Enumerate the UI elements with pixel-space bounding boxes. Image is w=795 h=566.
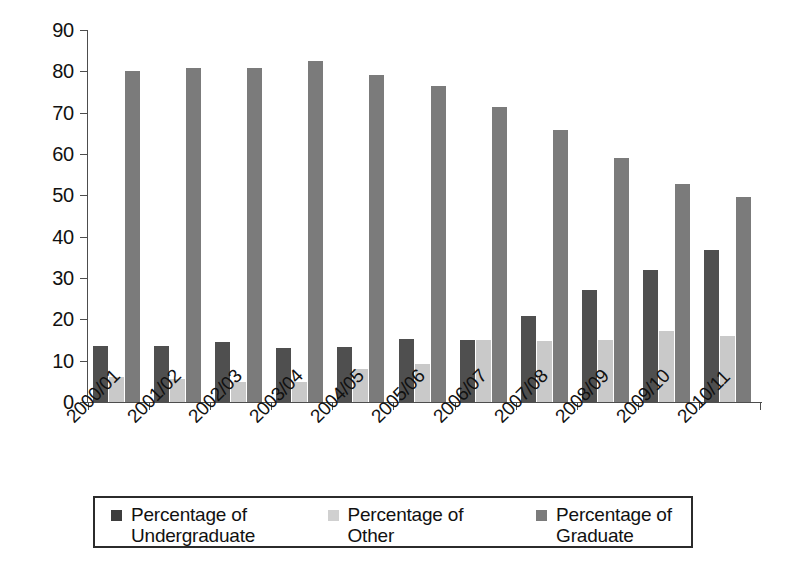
legend-label-other: Percentage of Other xyxy=(348,504,464,546)
bar-graduate-2009-10 xyxy=(675,184,690,402)
y-tick-label-text-60: 60 xyxy=(34,144,74,164)
legend-label-graduate: Percentage of Graduate xyxy=(556,504,672,546)
legend-item-graduate[interactable]: Percentage of Graduate xyxy=(532,504,691,546)
legend-swatch-graduate-icon xyxy=(536,510,547,521)
bar-group-2001-02 xyxy=(154,30,201,402)
legend-label-undergraduate-line2: Undergraduate xyxy=(131,525,255,546)
legend-swatch-undergraduate-icon xyxy=(111,510,122,521)
bar-group-2003-04 xyxy=(276,30,323,402)
y-tick-label-90: 90 xyxy=(28,20,74,40)
bar-graduate-2005-06 xyxy=(431,86,446,402)
bar-graduate-2003-04 xyxy=(308,61,323,402)
y-tick-label-30: 30 xyxy=(28,268,74,288)
bar-group-2007-08 xyxy=(521,30,568,402)
bar-graduate-2001-02 xyxy=(186,68,201,402)
legend-item-other[interactable]: Percentage of Other xyxy=(326,504,533,546)
bar-group-2006-07 xyxy=(460,30,507,402)
bar-graduate-2006-07 xyxy=(492,107,507,402)
y-tick-30 xyxy=(80,278,87,279)
y-tick-60 xyxy=(80,154,87,155)
y-tick-label-50: 50 xyxy=(28,185,74,205)
y-tick-40 xyxy=(80,237,87,238)
y-tick-label-text-30: 30 xyxy=(34,268,74,288)
bar-graduate-2000-01 xyxy=(125,71,140,402)
legend-label-other-line1: Percentage of xyxy=(348,504,464,525)
bar-group-2002-03 xyxy=(215,30,262,402)
legend-label-graduate-line2: Graduate xyxy=(556,525,672,546)
y-tick-label-text-40: 40 xyxy=(34,227,74,247)
y-tick-50 xyxy=(80,195,87,196)
legend-label-graduate-line1: Percentage of xyxy=(556,504,672,525)
legend-label-undergraduate: Percentage of Undergraduate xyxy=(131,504,255,546)
y-tick-label-text-80: 80 xyxy=(34,61,74,81)
legend-item-undergraduate[interactable]: Percentage of Undergraduate xyxy=(95,504,326,546)
y-tick-70 xyxy=(80,113,87,114)
y-tick-label-text-10: 10 xyxy=(34,351,74,371)
bar-graduate-2007-08 xyxy=(553,130,568,402)
x-axis-line xyxy=(80,402,762,403)
bar-graduate-2008-09 xyxy=(614,158,629,402)
legend-label-other-line2: Other xyxy=(348,525,464,546)
y-tick-label-70: 70 xyxy=(28,103,74,123)
y-tick-label-10: 10 xyxy=(28,351,74,371)
bar-group-2010-11 xyxy=(704,30,751,402)
bar-graduate-2010-11 xyxy=(736,197,751,402)
y-tick-label-20: 20 xyxy=(28,309,74,329)
bar-group-2004-05 xyxy=(337,30,384,402)
bar-chart: 0102030405060708090 2000/012001/022002/0… xyxy=(0,0,795,566)
y-tick-label-text-90: 90 xyxy=(34,20,74,40)
y-tick-10 xyxy=(80,361,87,362)
bar-graduate-2004-05 xyxy=(369,75,384,402)
bar-group-2009-10 xyxy=(643,30,690,402)
y-tick-label-40: 40 xyxy=(28,227,74,247)
bar-group-2005-06 xyxy=(399,30,446,402)
legend-swatch-other-icon xyxy=(328,510,339,521)
plot-area xyxy=(88,30,760,402)
bar-group-2008-09 xyxy=(582,30,629,402)
bar-graduate-2002-03 xyxy=(247,68,262,402)
x-tick-2010-11 xyxy=(760,403,761,410)
y-tick-label-80: 80 xyxy=(28,61,74,81)
bar-group-2000-01 xyxy=(93,30,140,402)
chart-legend: Percentage of Undergraduate Percentage o… xyxy=(93,496,693,548)
y-tick-label-60: 60 xyxy=(28,144,74,164)
y-tick-80 xyxy=(80,71,87,72)
y-tick-90 xyxy=(80,30,87,31)
y-tick-label-text-20: 20 xyxy=(34,309,74,329)
y-tick-20 xyxy=(80,319,87,320)
y-tick-label-text-50: 50 xyxy=(34,185,74,205)
legend-label-undergraduate-line1: Percentage of xyxy=(131,504,247,525)
y-tick-label-text-70: 70 xyxy=(34,103,74,123)
